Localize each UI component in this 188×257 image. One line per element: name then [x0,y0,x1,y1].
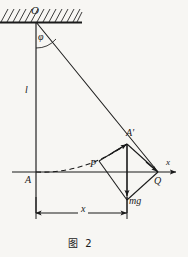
label-tension-P: P [90,159,96,169]
ceiling-support [0,9,82,23]
trajectory-arc [36,144,127,172]
string-displaced [36,22,158,172]
label-dimension-x: x [78,204,88,214]
label-axis-x: x [166,158,170,167]
figure-caption: 图 2 [68,235,94,250]
label-angle-phi: φ [38,32,44,42]
figure-container: O φ l A A' P Q mg x x 图 2 [0,0,188,257]
label-point-A: A [25,175,31,185]
label-force-Q: Q [154,176,161,186]
label-length-l: l [25,85,28,95]
pendulum-diagram [0,0,188,257]
label-point-A-prime: A' [126,128,134,138]
label-weight-mg: mg [129,196,141,206]
label-pivot-O: O [31,5,39,16]
